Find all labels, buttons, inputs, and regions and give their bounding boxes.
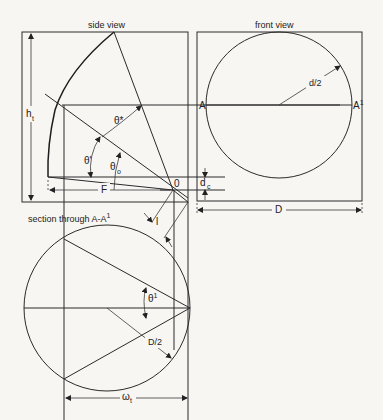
D-label: D xyxy=(275,204,282,215)
theta1-label: θ1 xyxy=(148,292,158,304)
dc-label: d xyxy=(200,177,206,188)
section-upper-chord xyxy=(64,239,190,308)
front-view-panel: front view d/2 A A1 d c D xyxy=(197,20,364,216)
theta-o-subscript: o xyxy=(117,168,121,175)
omega-subscript: t xyxy=(130,397,132,404)
section-title: section through A-A1 xyxy=(28,212,111,224)
side-view-title: side view xyxy=(88,20,126,30)
technical-diagram: side view h t F 0 θ* θ' xyxy=(0,0,383,420)
theta-prime-arc xyxy=(90,137,100,177)
theta-prime-label: θ' xyxy=(84,155,92,166)
front-view-frame xyxy=(197,32,362,201)
lower-edge-line xyxy=(48,177,173,190)
omega-label: ω xyxy=(122,391,130,402)
D-half-label: D/2 xyxy=(148,337,162,347)
apex-to-origin-line xyxy=(114,32,173,190)
theta-o-label: θ xyxy=(110,161,116,172)
diagonal-theta-line xyxy=(45,94,188,198)
origin-label: 0 xyxy=(174,178,180,189)
A-label: A xyxy=(199,100,206,111)
front-view-title: front view xyxy=(255,20,294,30)
d-half-label: d/2 xyxy=(309,78,322,88)
dc-subscript: c xyxy=(207,183,211,190)
ht-label: h xyxy=(26,108,32,119)
section-lower-chord xyxy=(64,308,190,379)
D-half-radius xyxy=(107,308,171,358)
F-label: F xyxy=(101,184,107,195)
l-label: l xyxy=(156,216,158,227)
theta1-arc xyxy=(144,288,146,318)
section-view-panel: section through A-A1 θ1 D/2 ω t xyxy=(24,212,190,404)
theta-star-label: θ* xyxy=(114,115,124,126)
ht-subscript: t xyxy=(32,115,34,122)
